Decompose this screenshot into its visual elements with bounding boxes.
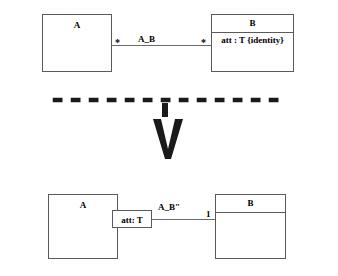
bottom-attribute-box-label: att: T <box>113 216 151 225</box>
top-class-b-name: B <box>212 19 293 28</box>
bottom-target-multiplicity: 1 <box>206 210 211 219</box>
top-class-b-box: B att : T {identity} <box>211 14 294 72</box>
bottom-attribute-box: att: T <box>112 210 152 228</box>
bottom-association-label: A_B" <box>158 203 180 212</box>
uml-transformation-diagram: A B att : T {identity} A_B * * A att: T … <box>0 0 338 276</box>
top-source-multiplicity: * <box>115 38 120 48</box>
bottom-class-b-box: B <box>215 194 286 259</box>
top-class-b-attribute: att : T {identity} <box>212 36 293 45</box>
transformation-arrow-icon <box>148 103 188 161</box>
top-association-label: A_B <box>138 35 155 44</box>
bottom-class-b-divider <box>216 212 285 213</box>
top-class-b-divider <box>212 32 293 33</box>
top-target-multiplicity: * <box>201 38 206 48</box>
top-association-line <box>112 45 211 46</box>
bottom-class-a-box: A <box>48 194 118 259</box>
top-class-a-box: A <box>42 14 112 72</box>
top-class-a-name: A <box>43 21 111 30</box>
bottom-class-a-name: A <box>49 201 117 210</box>
bottom-association-line <box>152 219 215 220</box>
bottom-class-b-name: B <box>216 199 285 208</box>
